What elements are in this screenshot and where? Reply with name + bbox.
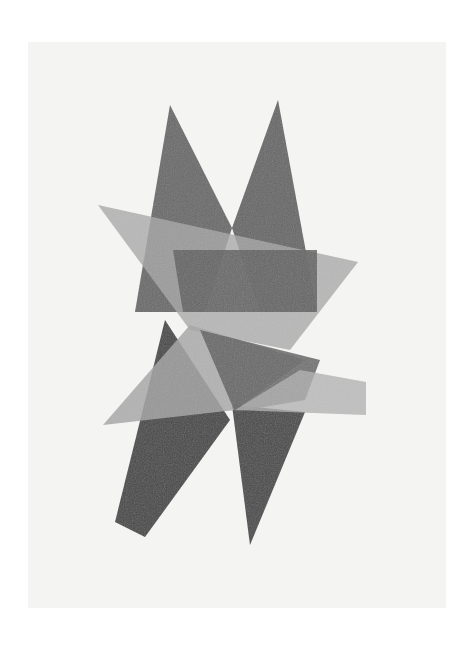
lower-right-dark-triangle (232, 405, 305, 545)
geometric-drawing (0, 0, 471, 652)
center-dark-rectangle (173, 250, 317, 312)
